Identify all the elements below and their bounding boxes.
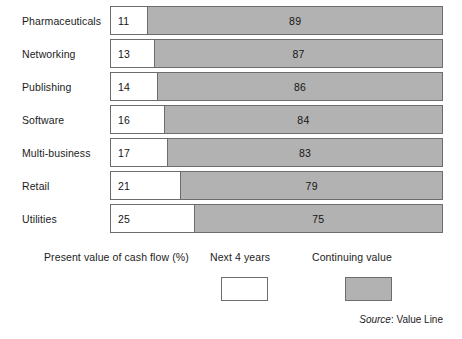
bar-value-label: 89 xyxy=(289,15,301,27)
bar-value-label: 11 xyxy=(111,15,129,27)
bar-segment-continuing-value: 86 xyxy=(158,72,443,101)
bar-value-label: 86 xyxy=(294,81,306,93)
bar-value-label: 79 xyxy=(306,180,318,192)
bar-value-label: 87 xyxy=(292,48,304,60)
bar-value-label: 84 xyxy=(297,114,309,126)
bar-value-label: 16 xyxy=(111,114,130,126)
table-row: 13 87 xyxy=(110,39,443,68)
stacked-bar-chart: Pharmaceuticals Networking Publishing So… xyxy=(0,0,462,339)
table-row: 16 84 xyxy=(110,105,443,134)
bar-value-label: 75 xyxy=(312,213,324,225)
legend-swatch-continuing-value xyxy=(345,277,392,301)
bar-value-label: 14 xyxy=(111,81,130,93)
table-row: 11 89 xyxy=(110,6,443,35)
category-label-publishing: Publishing xyxy=(22,81,108,93)
bar-segment-next-4-years: 16 xyxy=(110,105,165,134)
category-label-software: Software xyxy=(22,114,108,126)
bar-value-label: 83 xyxy=(299,147,311,159)
axis-caption: Present value of cash flow (%) xyxy=(44,251,189,263)
category-label-retail: Retail xyxy=(22,180,108,192)
category-label-networking: Networking xyxy=(22,48,108,60)
table-row: 14 86 xyxy=(110,72,443,101)
table-row: 25 75 xyxy=(110,204,443,233)
bar-segment-next-4-years: 11 xyxy=(110,6,148,35)
table-row: 21 79 xyxy=(110,171,443,200)
bar-segment-next-4-years: 13 xyxy=(110,39,155,68)
bar-value-label: 13 xyxy=(111,48,130,60)
source-text: : Value Line xyxy=(391,314,443,325)
category-label-utilities: Utilities xyxy=(22,213,108,225)
bar-segment-continuing-value: 83 xyxy=(168,138,443,167)
bar-segment-next-4-years: 25 xyxy=(110,204,195,233)
bar-value-label: 25 xyxy=(111,213,130,225)
bar-value-label: 21 xyxy=(111,180,130,192)
category-label-pharmaceuticals: Pharmaceuticals xyxy=(22,15,108,27)
legend-label-continuing-value: Continuing value xyxy=(312,251,392,263)
bar-segment-continuing-value: 84 xyxy=(165,105,443,134)
legend-swatch-next-4-years xyxy=(221,277,268,301)
source-word: Source xyxy=(359,314,391,325)
bar-segment-next-4-years: 21 xyxy=(110,171,181,200)
category-label-multi-business: Multi-business xyxy=(22,147,108,159)
bar-value-label: 17 xyxy=(111,147,130,159)
source-note: Source: Value Line xyxy=(359,314,443,325)
table-row: 17 83 xyxy=(110,138,443,167)
bar-segment-continuing-value: 89 xyxy=(148,6,443,35)
bar-segment-continuing-value: 75 xyxy=(195,204,444,233)
bar-segment-next-4-years: 17 xyxy=(110,138,168,167)
bar-segment-next-4-years: 14 xyxy=(110,72,158,101)
bar-segment-continuing-value: 87 xyxy=(155,39,443,68)
legend-label-next-4-years: Next 4 years xyxy=(210,251,270,263)
bar-segment-continuing-value: 79 xyxy=(181,171,443,200)
